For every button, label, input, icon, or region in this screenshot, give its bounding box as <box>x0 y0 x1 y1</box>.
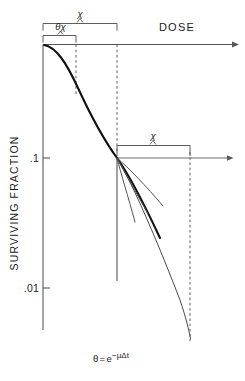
survival-curve-figure: DOSE .1 .01 SURVIVING FRACTION χ θχ χ θ … <box>0 0 245 381</box>
bracket-label-chi-second: χ <box>149 130 156 141</box>
dashed-guides-group <box>76 45 190 342</box>
bracket-chi-second <box>117 146 190 157</box>
equation-base: e <box>107 353 112 364</box>
y-axis-title: SURVIVING FRACTION <box>8 136 20 271</box>
continuation-curve <box>117 158 191 339</box>
equation-equals: = <box>100 353 106 364</box>
bracket-theta-chi-pointer <box>58 31 63 35</box>
top-dose-axis-group <box>43 42 239 48</box>
fan-curve-2 <box>117 158 148 214</box>
top-brackets-group <box>43 19 117 43</box>
bracket-theta-chi <box>43 36 76 43</box>
top-dose-axis-arrowhead <box>232 42 239 48</box>
y-tick-label-0.01: .01 <box>24 282 39 294</box>
equation-exponent: −μΔt <box>112 351 130 360</box>
second-dose-axis-group <box>117 141 234 161</box>
bracket-chi-top <box>43 24 117 31</box>
equation-theta: θ <box>93 353 98 364</box>
second-dose-axis-arrowhead <box>227 155 234 160</box>
bracket-chi-top-pointer <box>77 19 83 23</box>
caption-equation-group: θ = e −μΔt <box>93 351 130 365</box>
dose-axis-label: DOSE <box>159 21 195 33</box>
figure-canvas: DOSE .1 .01 SURVIVING FRACTION χ θχ χ θ … <box>0 0 245 381</box>
bracket-label-chi-top: χ <box>76 8 83 19</box>
bracket-label-theta-chi: θχ <box>55 21 66 32</box>
y-axis-group <box>43 45 50 331</box>
fan-curve-1 <box>117 158 135 222</box>
y-tick-label-0.1: .1 <box>30 152 39 164</box>
bracket-chi-second-pointer <box>150 141 156 145</box>
